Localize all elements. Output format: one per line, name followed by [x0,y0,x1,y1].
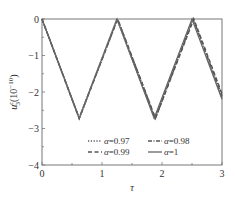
legend-label: α=0.99 [104,147,130,157]
legend-label: α=0.98 [164,136,190,146]
x-tick-label: 0 [40,168,45,179]
series-line-4 [42,19,222,118]
legend-label: α=1 [164,147,178,157]
y-tick-label: −3 [28,123,39,134]
y-tick-label: −4 [28,160,39,171]
y-tick-label: −2 [28,87,39,98]
x-tick-label: 2 [160,168,165,179]
legend-label: α=0.97 [104,136,130,146]
chart: 01230−1−2−3−4 α=0.97α=0.98α=0.99α=1 τ uc… [0,0,235,202]
y-tick-label: 0 [34,14,39,25]
y-tick-label: −1 [28,50,39,61]
x-axis-label: τ [130,182,134,193]
series-line-2 [42,19,222,118]
x-tick-label: 1 [100,168,105,179]
series-layer [42,19,222,118]
series-line-3 [42,19,222,118]
series-line-1 [42,19,222,118]
x-tick-label: 3 [220,168,225,179]
y-axis-label: uc3(10−10) [7,74,22,109]
legend: α=0.97α=0.98α=0.99α=1 [88,136,190,157]
